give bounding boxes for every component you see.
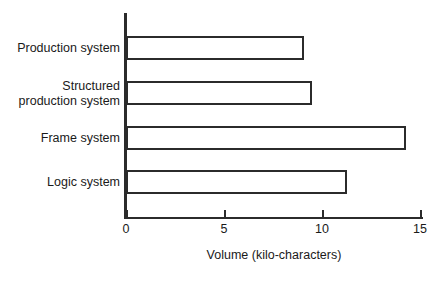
x-tick-label-10: 10 (302, 222, 342, 236)
x-tick-mark-15 (420, 210, 422, 218)
x-tick-mark-0 (126, 210, 128, 218)
x-tick-mark-10 (322, 210, 324, 218)
category-label-frame-system: Frame system (0, 131, 120, 146)
bar-logic-system (126, 170, 347, 194)
category-label-structured-production-system: Structured production system (0, 79, 120, 108)
category-label-logic-system: Logic system (0, 175, 120, 190)
bar-production-system (126, 36, 304, 60)
x-tick-label-0: 0 (106, 222, 146, 236)
bar-frame-system (126, 126, 406, 150)
x-axis-title: Volume (kilo-characters) (126, 248, 422, 262)
plot-area (126, 13, 422, 218)
x-tick-label-15: 15 (400, 222, 440, 236)
bar-structured-production-system (126, 81, 312, 105)
x-tick-mark-5 (224, 210, 226, 218)
bar-chart: Production system Structured production … (0, 0, 442, 282)
x-tick-label-5: 5 (204, 222, 244, 236)
category-label-production-system: Production system (0, 41, 120, 56)
